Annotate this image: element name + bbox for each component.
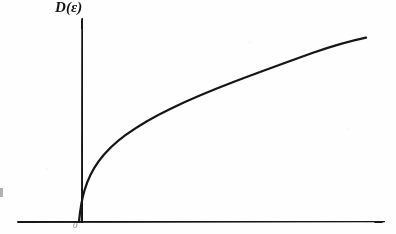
y-axis-label: D(ε) [55, 0, 82, 15]
figure-container: D(ε) 0 [0, 0, 396, 234]
plot-area [0, 0, 396, 234]
dos-curve [79, 38, 366, 222]
scan-artifact-speck [0, 188, 3, 197]
origin-label: 0 [73, 221, 78, 230]
